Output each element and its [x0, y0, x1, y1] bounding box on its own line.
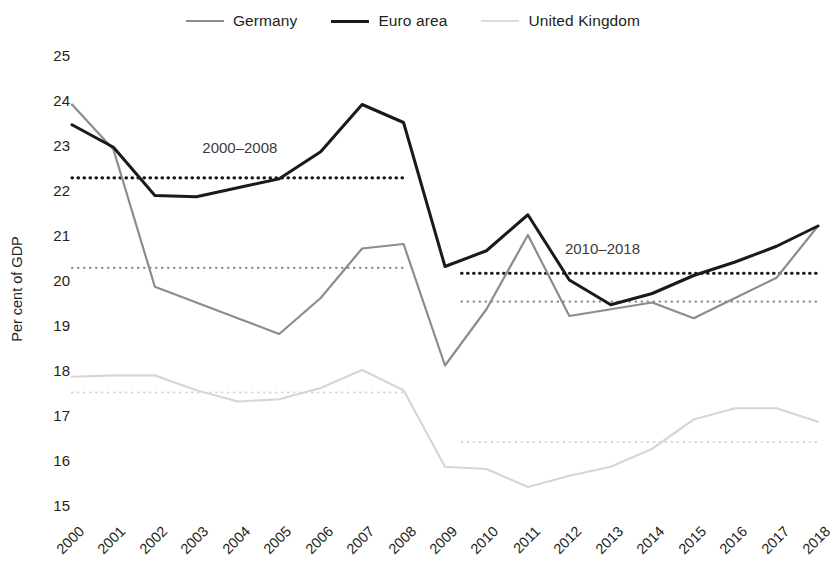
- period-annotation: 2010–2018: [565, 239, 640, 256]
- period-annotation: 2000–2008: [202, 139, 277, 156]
- series-line-germany: [72, 105, 818, 366]
- series-line-euro-area: [72, 105, 818, 305]
- series-line-united-kingdom: [72, 370, 818, 487]
